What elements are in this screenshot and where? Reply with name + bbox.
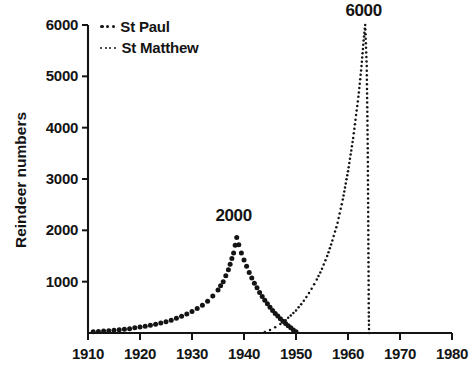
x-axis-tick-label: 1950 — [270, 345, 322, 362]
data-point — [327, 251, 330, 254]
data-point — [367, 243, 370, 246]
data-point — [101, 329, 106, 334]
x-axis-tick-label: 1940 — [218, 345, 270, 362]
data-point — [367, 247, 370, 250]
data-point — [321, 268, 324, 271]
data-point — [353, 132, 356, 135]
data-point — [319, 271, 322, 274]
data-point — [216, 287, 221, 292]
y-axis-tick-label: 4000 — [0, 119, 78, 136]
legend-marker-bold-dot-icon — [100, 25, 117, 29]
data-point — [234, 235, 239, 240]
data-point — [366, 69, 369, 72]
data-point — [368, 328, 371, 331]
data-point — [127, 326, 132, 331]
data-point — [300, 303, 303, 306]
data-point — [366, 97, 369, 100]
data-point — [255, 285, 260, 290]
data-point — [367, 302, 370, 305]
y-axis-tick-label: 5000 — [0, 67, 78, 84]
data-point — [236, 242, 241, 247]
data-point — [366, 124, 369, 127]
data-point — [228, 262, 233, 267]
data-point — [223, 273, 228, 278]
data-point — [179, 314, 184, 319]
data-point — [355, 114, 358, 117]
data-point — [148, 323, 153, 328]
data-point — [335, 226, 338, 229]
data-point — [308, 292, 311, 295]
series-st-paul — [91, 235, 299, 334]
data-point — [345, 182, 348, 185]
legend-label-st-matthew: St Matthew — [121, 39, 198, 56]
data-point — [368, 324, 371, 327]
data-point — [358, 82, 361, 85]
data-point — [368, 332, 371, 335]
data-point — [347, 166, 350, 169]
data-point — [210, 294, 215, 299]
x-axis-tick-label: 1960 — [322, 345, 374, 362]
data-point — [221, 279, 226, 284]
data-point — [367, 206, 370, 209]
data-point — [366, 115, 369, 118]
data-point — [332, 235, 335, 238]
data-point — [366, 142, 369, 145]
data-point — [361, 56, 364, 59]
data-point — [367, 279, 370, 282]
data-point — [364, 28, 367, 31]
data-point — [242, 258, 247, 263]
data-point — [366, 138, 369, 141]
chart-axes — [82, 25, 452, 340]
data-point — [347, 170, 350, 173]
data-point — [297, 306, 300, 309]
data-point — [366, 106, 369, 109]
y-axis-tick-label: 2000 — [0, 221, 78, 238]
data-point — [365, 56, 368, 59]
series-st-matthew — [264, 24, 371, 335]
data-point — [367, 183, 370, 186]
data-point — [363, 35, 366, 38]
data-point — [367, 202, 370, 205]
data-point — [341, 203, 344, 206]
data-point — [331, 239, 334, 242]
data-point — [364, 37, 367, 40]
x-axis-tick-label: 1970 — [374, 345, 426, 362]
data-point — [353, 128, 356, 131]
x-axis-tick-label: 1980 — [426, 345, 476, 362]
y-axis-tick-label: 1000 — [0, 273, 78, 290]
data-point — [132, 325, 137, 330]
y-axis-tick-label: 6000 — [0, 16, 78, 33]
data-point — [190, 309, 195, 314]
data-point — [362, 39, 365, 42]
data-point — [367, 252, 370, 255]
data-point — [367, 288, 370, 291]
legend-label-st-paul: St Paul — [120, 18, 169, 35]
data-point — [295, 309, 298, 312]
data-point — [367, 261, 370, 264]
data-point — [279, 323, 282, 326]
data-point — [292, 312, 295, 315]
data-point — [324, 259, 327, 262]
data-point — [138, 325, 143, 330]
data-point — [158, 320, 163, 325]
data-point — [354, 123, 357, 126]
data-point — [244, 264, 249, 269]
legend-entry-st-paul[interactable]: St Paul — [100, 18, 170, 35]
data-point — [284, 319, 287, 322]
chart-annotation-2000: 2000 — [209, 206, 259, 226]
data-point — [343, 190, 346, 193]
data-point — [365, 60, 368, 63]
reindeer-population-chart: Reindeer numbers St Paul St Matthew 2000… — [0, 0, 476, 379]
data-point — [367, 225, 370, 228]
data-point — [345, 178, 348, 181]
data-point — [349, 153, 352, 156]
data-point — [195, 306, 200, 311]
data-point — [367, 298, 370, 301]
data-point — [367, 152, 370, 155]
legend-entry-st-matthew[interactable]: St Matthew — [100, 39, 199, 56]
data-point — [351, 145, 354, 148]
data-point — [342, 194, 345, 197]
data-point — [96, 329, 101, 334]
data-point — [334, 230, 337, 233]
data-point — [367, 147, 370, 150]
